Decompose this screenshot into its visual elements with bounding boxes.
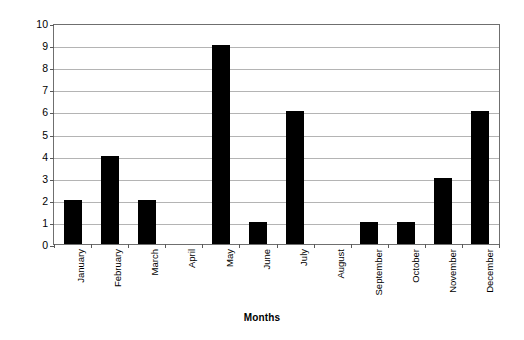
y-axis-tick-label: 2 <box>26 196 48 206</box>
x-axis-tick-label: May <box>225 249 235 267</box>
y-axis-tick-label: 1 <box>26 218 48 228</box>
x-axis-tick-label: November <box>448 249 458 293</box>
bar-group <box>462 25 499 244</box>
x-axis-tick-label: April <box>187 249 197 268</box>
x-axis-label-cell: February <box>90 245 127 307</box>
y-axis-tick-label: 3 <box>26 174 48 184</box>
x-axis-tick-label: August <box>336 249 346 279</box>
bar-group <box>91 25 128 244</box>
y-axis-tick-label: 6 <box>26 107 48 117</box>
bar-group <box>388 25 425 244</box>
bar-group <box>202 25 239 244</box>
bar-group <box>276 25 313 244</box>
x-axis-title: Months <box>0 312 524 323</box>
bar <box>286 111 304 244</box>
bar-group <box>351 25 388 244</box>
x-axis-label-cell: January <box>53 245 90 307</box>
x-axis-label-cell: November <box>426 245 463 307</box>
bar-group <box>128 25 165 244</box>
x-axis-tick-label: October <box>411 249 421 283</box>
x-axis-label-cell: August <box>314 245 351 307</box>
bar <box>360 222 378 244</box>
y-axis-tick-label: 5 <box>26 130 48 140</box>
x-axis-tick-label: July <box>299 249 309 266</box>
bar <box>471 111 489 244</box>
x-axis-label-cell: July <box>277 245 314 307</box>
x-axis-label-cell: September <box>351 245 388 307</box>
x-axis-tick-label: December <box>485 249 495 293</box>
bar-group <box>239 25 276 244</box>
x-axis-tick-label: February <box>113 249 123 287</box>
y-axis-tick-label: 10 <box>26 19 48 29</box>
x-axis-tick-label: March <box>150 249 160 275</box>
y-axis-tick-label: 4 <box>26 152 48 162</box>
x-axis-tick-label: September <box>374 249 384 295</box>
bar <box>212 45 230 244</box>
x-axis-tick-labels: JanuaryFebruaryMarchAprilMayJuneJulyAugu… <box>53 245 500 307</box>
x-axis-tick-label: January <box>76 249 86 283</box>
bar <box>397 222 415 244</box>
bar-group <box>314 25 351 244</box>
bar <box>138 200 156 244</box>
y-axis-tick-label: 8 <box>26 63 48 73</box>
x-axis-label-cell: May <box>202 245 239 307</box>
x-axis-tick-label: June <box>262 249 272 270</box>
bar-group <box>165 25 202 244</box>
y-axis-tick-label: 0 <box>26 240 48 250</box>
y-axis-tick-label: 9 <box>26 41 48 51</box>
bar <box>101 156 119 244</box>
x-axis-label-cell: March <box>128 245 165 307</box>
bar <box>64 200 82 244</box>
x-axis-label-cell: October <box>388 245 425 307</box>
x-axis-label-cell: December <box>463 245 500 307</box>
x-axis-label-cell: June <box>239 245 276 307</box>
bar-group <box>54 25 91 244</box>
bars-layer <box>54 25 499 244</box>
bar <box>249 222 267 244</box>
bar-group <box>425 25 462 244</box>
bar-chart: Number of visual representations 1098765… <box>0 0 524 340</box>
y-axis-tick-label: 7 <box>26 85 48 95</box>
y-axis-tick-labels: 109876543210 <box>26 24 48 245</box>
plot-area <box>53 24 500 245</box>
x-axis-label-cell: April <box>165 245 202 307</box>
bar <box>434 178 452 244</box>
